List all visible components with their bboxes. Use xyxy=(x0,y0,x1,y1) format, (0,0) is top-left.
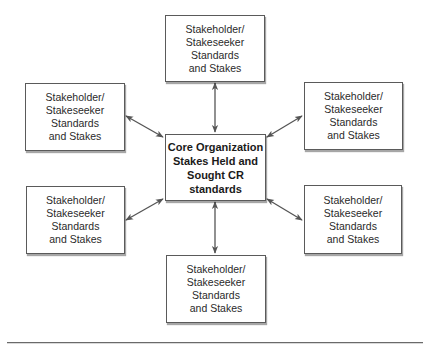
arrow-core-upper-left xyxy=(126,116,163,137)
stakeholder-box-lower-right: Stakeholder/ Stakeseeker Standards and S… xyxy=(304,185,402,254)
stakeholder-box-bottom: Stakeholder/ Stakeseeker Standards and S… xyxy=(166,255,266,323)
stakeholder-box-top: Stakeholder/ Stakeseeker Standards and S… xyxy=(165,15,265,82)
node-text-line: Stakeseeker xyxy=(46,104,104,117)
node-text-line: Stakeholder/ xyxy=(324,194,383,207)
core-text-line: Stakes Held and xyxy=(173,154,258,168)
node-text-line: and Stakes xyxy=(49,130,102,143)
node-text-line: Stakeholder/ xyxy=(46,194,105,207)
node-text-line: Standards xyxy=(52,220,100,233)
node-text-line: Standards xyxy=(51,117,99,130)
stakeholder-box-upper-left: Stakeholder/ Stakeseeker Standards and S… xyxy=(25,83,125,151)
arrow-core-upper-right xyxy=(267,116,302,137)
node-text-line: and Stakes xyxy=(189,62,242,75)
node-text-line: Stakeseeker xyxy=(46,207,104,220)
node-text-line: Standards xyxy=(192,289,240,302)
node-text-line: Stakeholder/ xyxy=(186,23,245,36)
node-text-line: Stakeholder/ xyxy=(324,90,383,103)
stakeholder-box-upper-right: Stakeholder/ Stakeseeker Standards and S… xyxy=(304,82,403,150)
node-text-line: and Stakes xyxy=(327,129,380,142)
core-organization-box: Core Organization Stakes Held and Sought… xyxy=(165,134,266,201)
core-text-line: standards xyxy=(189,182,242,196)
node-text-line: Stakeholder/ xyxy=(187,263,246,276)
node-text-line: and Stakes xyxy=(190,302,243,315)
bottom-divider xyxy=(7,342,423,343)
node-text-line: Stakeseeker xyxy=(187,276,245,289)
arrow-core-lower-right xyxy=(267,199,302,220)
node-text-line: Standards xyxy=(329,220,377,233)
node-text-line: Stakeseeker xyxy=(324,103,382,116)
node-text-line: Stakeseeker xyxy=(186,36,244,49)
node-text-line: and Stakes xyxy=(49,233,102,246)
node-text-line: Standards xyxy=(191,49,239,62)
core-text-line: Core Organization xyxy=(168,140,263,154)
node-text-line: and Stakes xyxy=(327,233,380,246)
node-text-line: Standards xyxy=(330,116,378,129)
arrow-core-lower-left xyxy=(126,199,163,220)
core-text-line: Sought CR xyxy=(187,168,244,182)
node-text-line: Stakeseeker xyxy=(324,207,382,220)
stakeholder-box-lower-left: Stakeholder/ Stakeseeker Standards and S… xyxy=(26,186,125,254)
node-text-line: Stakeholder/ xyxy=(46,91,105,104)
